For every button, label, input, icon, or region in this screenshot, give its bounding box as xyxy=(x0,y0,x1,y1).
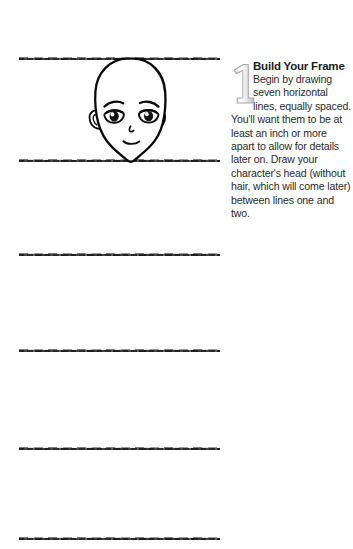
character-head-drawing xyxy=(72,50,192,170)
sketch-area xyxy=(0,0,228,549)
guide-line-5 xyxy=(19,448,220,450)
tutorial-page: Build Your Frame Begin by drawing seven … xyxy=(0,0,353,549)
guide-line-6 xyxy=(19,538,220,540)
step-text-column: Build Your Frame Begin by drawing seven … xyxy=(231,60,351,220)
numeral-one-icon xyxy=(231,63,257,105)
guide-line-3 xyxy=(19,254,220,256)
head-illustration-svg xyxy=(72,50,192,170)
step-heading: Build Your Frame xyxy=(253,60,351,73)
step-number-1-graphic xyxy=(231,63,257,105)
guide-line-4 xyxy=(19,350,220,352)
